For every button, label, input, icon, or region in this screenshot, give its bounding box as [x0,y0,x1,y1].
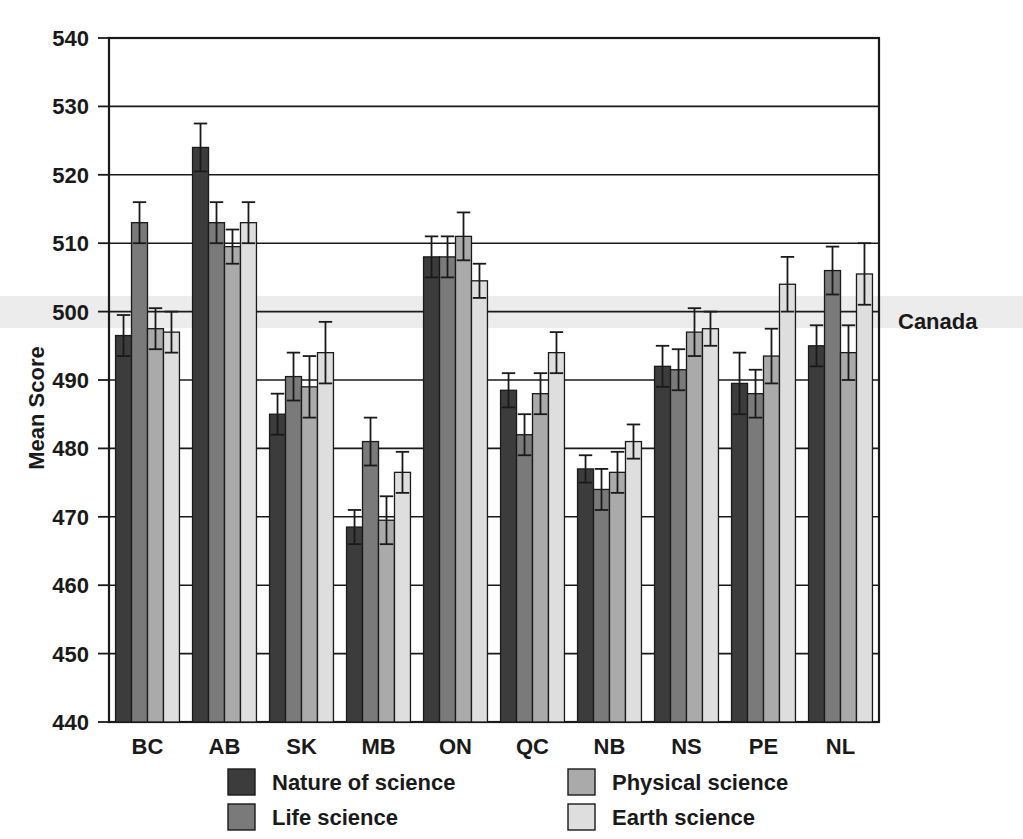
scan-bleed-artifact-mid [140,150,146,170]
bar-NL-nature-of-science [809,346,825,722]
legend-label-physical-science: Physical science [612,770,788,795]
legend-swatch-earth-science [568,804,595,830]
bar-QC-nature-of-science [501,390,517,722]
x-tick-label-NL: NL [826,734,855,759]
bar-SK-earth-science [317,353,333,722]
y-axis-title: Mean Score [24,346,49,470]
bar-AB-physical-science [225,247,241,722]
y-tick-label-520: 520 [52,163,89,188]
bar-NL-physical-science [841,353,857,722]
legend-swatch-nature-of-science [228,769,255,795]
y-tick-label-540: 540 [52,26,89,51]
bar-MB-life-science [363,442,379,722]
bar-MB-physical-science [379,520,395,722]
legend-swatch-life-science [228,804,255,830]
bar-QC-earth-science [548,353,564,722]
bar-SK-nature-of-science [270,414,286,722]
bar-AB-earth-science [240,223,256,722]
x-tick-label-MB: MB [361,734,395,759]
scan-bleed-artifact-low [60,600,66,620]
bar-NB-physical-science [610,472,626,722]
chart-figure: 440450460470480490500510520530540 Mean S… [0,0,1023,839]
y-tick-label-490: 490 [52,368,89,393]
x-tick-label-SK: SK [286,734,317,759]
x-tick-label-NB: NB [594,734,626,759]
bar-AB-nature-of-science [193,147,209,722]
bar-PE-nature-of-science [732,383,748,722]
bar-NL-earth-science [856,274,872,722]
bar-MB-earth-science [394,472,410,722]
bar-PE-life-science [748,394,764,722]
bar-BC-earth-science [163,332,179,722]
y-tick-label-440: 440 [52,710,89,735]
x-tick-label-PE: PE [749,734,778,759]
bar-NS-nature-of-science [655,366,671,722]
bar-PE-earth-science [779,284,795,722]
x-tick-label-AB: AB [209,734,241,759]
grouped-bar-chart: 440450460470480490500510520530540 Mean S… [0,0,1023,839]
bar-ON-nature-of-science [424,257,440,722]
y-tick-label-510: 510 [52,231,89,256]
bar-QC-life-science [517,435,533,722]
bar-SK-physical-science [302,387,318,722]
bar-NS-life-science [671,370,687,722]
scan-bleed-artifact-top [60,2,66,22]
y-tick-label-460: 460 [52,573,89,598]
bar-MB-nature-of-science [347,527,363,722]
x-tick-label-QC: QC [516,734,549,759]
bar-NS-physical-science [687,332,703,722]
legend-label-earth-science: Earth science [612,805,755,830]
legend-label-nature-of-science: Nature of science [272,770,455,795]
bar-BC-life-science [132,223,148,722]
bar-NB-life-science [594,489,610,722]
bar-SK-life-science [286,377,302,722]
x-tick-label-BC: BC [132,734,164,759]
bar-NS-earth-science [702,329,718,722]
bar-AB-life-science [209,223,225,722]
y-tick-label-500: 500 [52,300,89,325]
x-tick-label-NS: NS [671,734,702,759]
legend-swatch-physical-science [568,769,595,795]
bar-BC-physical-science [148,329,164,722]
bar-QC-physical-science [533,394,549,722]
y-tick-label-480: 480 [52,436,89,461]
bar-NB-nature-of-science [578,469,594,722]
y-tick-label-530: 530 [52,94,89,119]
y-tick-label-450: 450 [52,642,89,667]
legend-entry-life-science: Life science [228,804,398,830]
bar-NB-earth-science [625,442,641,722]
bar-ON-life-science [440,257,456,722]
bar-BC-nature-of-science [116,336,132,722]
bar-NL-life-science [825,271,841,722]
bar-ON-physical-science [456,236,472,722]
bar-PE-physical-science [764,356,780,722]
y-tick-label-470: 470 [52,505,89,530]
x-tick-label-ON: ON [439,734,472,759]
bar-ON-earth-science [471,281,487,722]
legend-label-life-science: Life science [272,805,398,830]
canada-reference-label: Canada [898,309,978,334]
